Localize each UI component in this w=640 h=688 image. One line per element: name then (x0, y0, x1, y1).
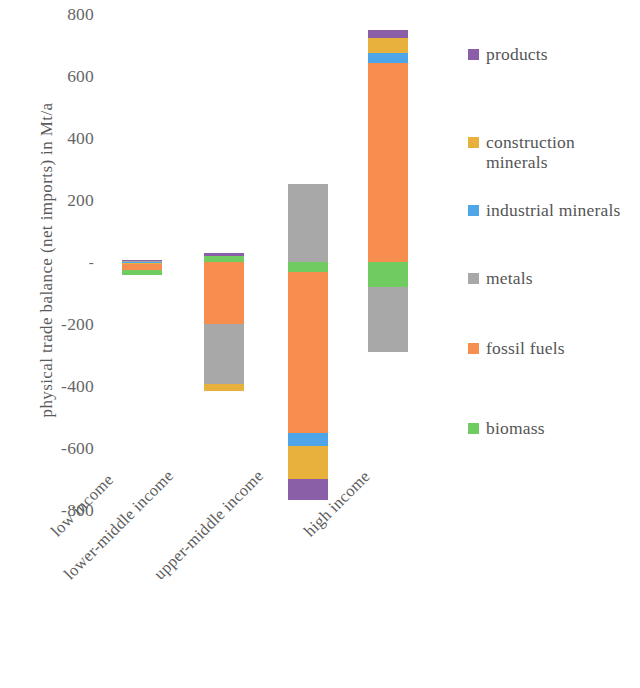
bar-segment-biomass (288, 262, 328, 272)
y-tick-label: 800 (67, 4, 94, 25)
y-tick-label: -200 (61, 314, 94, 335)
y-tick-label: 400 (67, 128, 94, 149)
bar-segment-biomass (122, 270, 162, 275)
legend-label: products (486, 44, 548, 64)
bar-segment-fossil-fuels (368, 63, 408, 262)
stacked-bar-chart: physical trade balance (net imports) in … (0, 0, 640, 688)
bar-high-income (368, 0, 408, 512)
legend-item-fossil-fuels[interactable]: fossil fuels (468, 338, 565, 358)
legend-swatch-icon (468, 423, 479, 434)
y-tick-label: - (89, 254, 94, 271)
bar-segment-products (288, 479, 328, 500)
bar-segment-industrial-minerals (288, 433, 328, 446)
bar-segment-construction-minerals (204, 384, 244, 390)
y-tick-label: -400 (61, 376, 94, 397)
legend-swatch-icon (468, 205, 479, 216)
bar-upper-middle-income (288, 0, 328, 512)
bar-segment-metals (204, 324, 244, 384)
legend-label: industrial minerals (486, 200, 621, 220)
bar-segment-industrial-minerals (368, 53, 408, 63)
bar-segment-construction-minerals (368, 38, 408, 53)
legend-item-metals[interactable]: metals (468, 268, 533, 288)
legend-item-industrial-minerals[interactable]: industrial minerals (468, 200, 621, 220)
legend-item-construction-minerals[interactable]: construction minerals (468, 132, 640, 172)
plot-area: 800600400200--200-400-600-800 (100, 0, 430, 512)
bar-low-income (122, 0, 162, 512)
y-axis-title: physical trade balance (net imports) in … (37, 25, 57, 495)
bar-lower-middle-income (204, 0, 244, 512)
y-tick-label: 600 (67, 66, 94, 87)
legend-swatch-icon (468, 49, 479, 60)
legend-label: biomass (486, 418, 545, 438)
bar-segment-fossil-fuels (288, 272, 328, 433)
legend-label: fossil fuels (486, 338, 565, 358)
bar-segment-biomass (368, 262, 408, 287)
bar-segment-products (368, 30, 408, 38)
legend-item-products[interactable]: products (468, 44, 548, 64)
legend-swatch-icon (468, 137, 479, 148)
legend-swatch-icon (468, 273, 479, 284)
bar-segment-metals (368, 287, 408, 352)
legend-item-biomass[interactable]: biomass (468, 418, 545, 438)
bar-segment-fossil-fuels (204, 262, 244, 324)
bar-segment-construction-minerals (288, 446, 328, 479)
y-tick-label: 200 (67, 190, 94, 211)
bar-segment-metals (288, 184, 328, 262)
legend-label: construction minerals (486, 132, 640, 172)
y-tick-label: -600 (61, 438, 94, 459)
legend-label: metals (486, 268, 533, 288)
legend-swatch-icon (468, 343, 479, 354)
